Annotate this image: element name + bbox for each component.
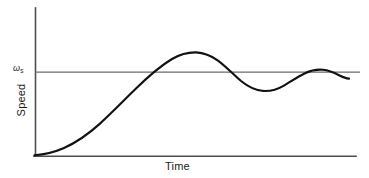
speed-vs-time-chart: Speed Time ωs [0, 0, 369, 178]
x-axis-label: Time [165, 160, 190, 172]
y-axis-tick-label-synchronous-speed: ωs [13, 63, 23, 74]
speed-response-curve [35, 52, 350, 155]
omega-subscript: s [20, 67, 23, 74]
chart-canvas [0, 0, 369, 178]
y-axis-label: Speed [15, 70, 27, 130]
